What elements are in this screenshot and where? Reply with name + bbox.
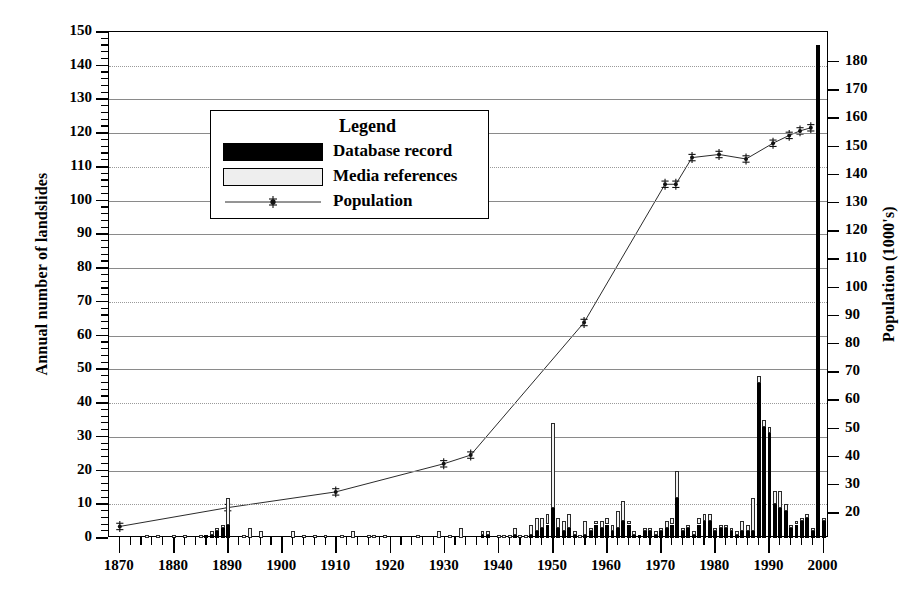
bar-media-references xyxy=(416,535,420,538)
x-axis-minor-tick xyxy=(238,537,239,545)
bar-media-references xyxy=(632,531,636,534)
y-axis-minor-tick xyxy=(101,51,108,52)
y-axis-right-major-tick xyxy=(828,484,839,486)
bar-media-references xyxy=(805,514,809,517)
bar-media-references xyxy=(481,531,485,534)
bar-database-record xyxy=(784,511,788,538)
bar-database-record xyxy=(675,498,679,538)
bar-database-record xyxy=(719,528,723,538)
y-axis-tick-label: 60 xyxy=(32,326,92,343)
bar-media-references xyxy=(800,518,804,521)
y-axis-major-tick xyxy=(96,166,108,168)
y-axis-minor-tick xyxy=(101,389,108,390)
x-axis-minor-tick xyxy=(476,537,477,545)
legend-item-media-references: Media references xyxy=(223,166,480,188)
y-axis-minor-tick xyxy=(101,281,108,282)
bar-media-references xyxy=(751,498,755,532)
bar-database-record xyxy=(210,535,214,538)
bar-database-record xyxy=(632,535,636,538)
x-axis-major-tick xyxy=(823,537,825,553)
y-axis-minor-tick xyxy=(101,287,108,288)
plot-area xyxy=(108,31,828,537)
y-axis-right-major-tick xyxy=(828,428,839,430)
x-axis-minor-tick xyxy=(433,537,434,545)
bar-media-references xyxy=(719,525,723,528)
y-axis-tick-label: 30 xyxy=(32,427,92,444)
y-axis-major-tick xyxy=(96,98,108,100)
bar-database-record xyxy=(481,535,485,538)
bar-database-record xyxy=(740,531,744,538)
y-axis-tick-label: 20 xyxy=(32,461,92,478)
bar-database-record xyxy=(703,521,707,538)
bar-media-references xyxy=(226,498,230,525)
y-axis-tick-label: 70 xyxy=(32,292,92,309)
bar-media-references xyxy=(675,471,679,498)
y-axis-minor-tick xyxy=(101,146,108,147)
x-axis-tick-label: 1970 xyxy=(630,557,690,574)
y-axis-tick-label: 120 xyxy=(32,123,92,140)
y-axis-major-tick xyxy=(96,267,108,269)
bar-media-references xyxy=(535,518,539,531)
y-axis-right-major-tick xyxy=(828,89,839,91)
bar-database-record xyxy=(594,525,598,538)
bar-media-references xyxy=(822,518,826,521)
x-axis-minor-tick xyxy=(411,537,412,545)
bar-database-record xyxy=(556,528,560,538)
x-axis-minor-tick xyxy=(801,537,802,545)
bar-media-references xyxy=(670,518,674,525)
x-axis-major-tick xyxy=(660,537,662,553)
bar-database-record xyxy=(773,504,777,538)
y-axis-minor-tick xyxy=(101,247,108,248)
bar-media-references xyxy=(221,525,225,528)
bar-media-references xyxy=(811,528,815,531)
bar-media-references xyxy=(730,528,734,531)
x-axis-tick-label: 1870 xyxy=(89,557,149,574)
bar-database-record xyxy=(708,521,712,538)
y-axis-major-tick xyxy=(96,31,108,33)
gridline-y xyxy=(109,437,827,438)
x-axis-minor-tick xyxy=(747,537,748,545)
y-axis-minor-tick xyxy=(101,227,108,228)
x-axis-minor-tick xyxy=(693,537,694,545)
bar-media-references xyxy=(692,531,696,534)
x-axis-major-tick xyxy=(552,537,554,553)
y-axis-minor-tick xyxy=(101,213,108,214)
x-axis-minor-tick xyxy=(303,537,304,545)
y-axis-major-tick xyxy=(96,537,108,539)
x-axis-minor-tick xyxy=(649,537,650,545)
y-axis-minor-tick xyxy=(101,105,108,106)
y-axis-right-major-tick xyxy=(828,456,839,458)
bar-database-record xyxy=(697,525,701,538)
population-marker xyxy=(440,458,447,469)
y-axis-major-tick xyxy=(96,368,108,370)
bar-database-record xyxy=(670,525,674,538)
bar-media-references xyxy=(789,525,793,528)
x-axis-minor-tick xyxy=(530,537,531,545)
bar-media-references xyxy=(724,525,728,528)
x-axis-tick-label: 1960 xyxy=(576,557,636,574)
y-axis-minor-tick xyxy=(101,348,108,349)
y-axis-right-major-tick xyxy=(828,258,839,260)
y-axis-minor-tick xyxy=(101,483,108,484)
y-axis-minor-tick xyxy=(101,112,108,113)
x-axis-minor-tick xyxy=(563,537,564,545)
legend-swatch-population xyxy=(223,193,323,211)
x-axis-minor-tick xyxy=(346,537,347,545)
gridline-y xyxy=(109,504,827,505)
legend-line-icon xyxy=(223,193,323,211)
y-axis-right-tick-label: 30 xyxy=(845,475,893,492)
y-axis-right-tick-label: 130 xyxy=(845,193,893,210)
bar-media-references xyxy=(665,521,669,528)
x-axis-tick-label: 1930 xyxy=(414,557,474,574)
bar-database-record xyxy=(621,521,625,538)
x-axis-minor-tick xyxy=(357,537,358,545)
bar-database-record xyxy=(643,531,647,538)
y-axis-right-tick-label: 150 xyxy=(845,137,893,154)
bar-media-references xyxy=(242,535,246,538)
x-axis-major-tick xyxy=(498,537,500,553)
y-axis-tick-label: 150 xyxy=(32,22,92,39)
gridline-y xyxy=(109,66,827,67)
y-axis-tick-label: 50 xyxy=(32,359,92,376)
y-axis-major-tick xyxy=(96,65,108,67)
bar-media-references xyxy=(594,521,598,524)
